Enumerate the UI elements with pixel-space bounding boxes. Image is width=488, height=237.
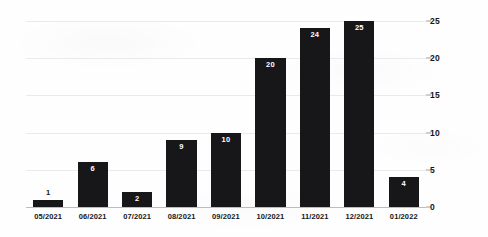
y-tick-label-0: 0 — [430, 202, 435, 212]
bar[interactable] — [33, 200, 63, 207]
x-tick-label-08-2021: 08/2021 — [159, 212, 203, 221]
bar-slot: 25 — [344, 21, 374, 207]
bar-value-label: 6 — [78, 164, 108, 173]
x-tick-label-10-2021: 10/2021 — [248, 212, 292, 221]
bar-slot: 20 — [255, 21, 285, 207]
bar-slot: 4 — [389, 21, 419, 207]
y-tick-label-10: 10 — [430, 128, 440, 138]
gridline-0 — [26, 207, 426, 208]
bar-slot: 24 — [300, 21, 330, 207]
bar[interactable]: 6 — [78, 162, 108, 207]
x-tick-label-09-2021: 09/2021 — [204, 212, 248, 221]
bar-value-label: 4 — [389, 179, 419, 188]
bar-value-label: 24 — [300, 30, 330, 39]
bar-value-label: 10 — [211, 135, 241, 144]
bar-slot: 6 — [78, 21, 108, 207]
x-tick-label-12-2021: 12/2021 — [337, 212, 381, 221]
bar[interactable]: 9 — [166, 140, 196, 207]
bar-slot: 1 — [33, 21, 63, 207]
bar[interactable]: 4 — [389, 177, 419, 207]
bar[interactable]: 10 — [211, 133, 241, 207]
y-tick-label-20: 20 — [430, 53, 440, 63]
y-tick-label-25: 25 — [430, 16, 440, 26]
bar-value-label: 1 — [33, 188, 63, 197]
plot-area: 0510152025 1629102024254 05/202106/20210… — [26, 21, 426, 207]
bar[interactable]: 2 — [122, 192, 152, 207]
y-tick-label-5: 5 — [430, 165, 435, 175]
bar-value-label: 2 — [122, 194, 152, 203]
x-tick-label-07-2021: 07/2021 — [115, 212, 159, 221]
bar-value-label: 20 — [255, 60, 285, 69]
bar-value-label: 25 — [344, 23, 374, 32]
bar[interactable]: 20 — [255, 58, 285, 207]
chart-page: 0510152025 1629102024254 05/202106/20210… — [0, 0, 488, 237]
bar[interactable]: 24 — [300, 28, 330, 207]
x-tick-label-11-2021: 11/2021 — [293, 212, 337, 221]
y-tick-label-15: 15 — [430, 90, 440, 100]
bar-slot: 10 — [211, 21, 241, 207]
x-tick-label-06-2021: 06/2021 — [70, 212, 114, 221]
bar-slot: 2 — [122, 21, 152, 207]
x-tick-label-01-2022: 01/2022 — [382, 212, 426, 221]
bar[interactable]: 25 — [344, 21, 374, 207]
bar-value-label: 9 — [166, 142, 196, 151]
bar-slot: 9 — [166, 21, 196, 207]
x-tick-label-05-2021: 05/2021 — [26, 212, 70, 221]
